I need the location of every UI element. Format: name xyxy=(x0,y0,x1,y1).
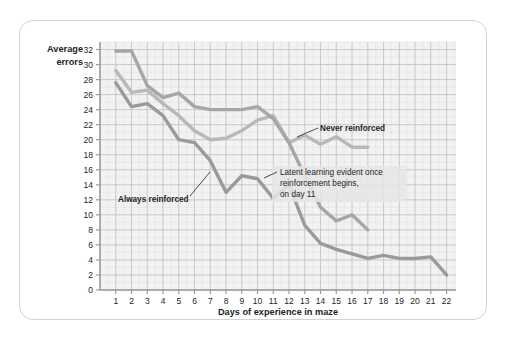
figure-card xyxy=(19,20,487,320)
